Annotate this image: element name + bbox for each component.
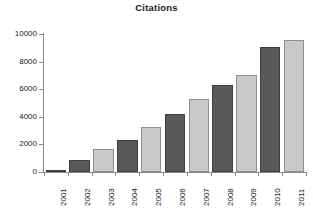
x-tick-mark — [139, 172, 140, 176]
x-tick-mark — [44, 172, 45, 176]
x-tick-mark — [282, 172, 283, 176]
bar-2006 — [165, 114, 185, 172]
bar-2008 — [212, 85, 232, 172]
y-tick-label: 2000 — [19, 140, 37, 148]
bar-2002 — [69, 160, 89, 172]
x-tick-label-2007: 2007 — [203, 188, 211, 206]
y-tick-mark — [39, 89, 44, 90]
x-tick-label-2011: 2011 — [298, 189, 306, 206]
x-tick-label-2002: 2002 — [84, 188, 92, 206]
bar-2007 — [189, 99, 209, 172]
y-tick-mark — [39, 117, 44, 118]
x-tick-label-2010: 2010 — [274, 188, 282, 206]
y-tick-label: 4000 — [19, 113, 37, 121]
x-axis-line — [44, 172, 306, 173]
x-tick-label-2006: 2006 — [179, 188, 187, 206]
x-tick-label-2003: 2003 — [108, 188, 116, 206]
x-tick-mark — [211, 172, 212, 176]
bar-2003 — [93, 149, 113, 172]
y-tick-label: 6000 — [19, 85, 37, 93]
y-tick-mark — [39, 62, 44, 63]
x-tick-label-2004: 2004 — [131, 188, 139, 206]
bar-2010 — [260, 47, 280, 172]
x-tick-mark — [306, 172, 307, 176]
citations-bar-chart: Citations 1000080006000400020000 2001200… — [0, 0, 313, 213]
x-tick-mark — [68, 172, 69, 176]
x-tick-mark — [187, 172, 188, 176]
bar-2005 — [141, 127, 161, 172]
x-tick-label-2001: 2001 — [60, 188, 68, 206]
chart-title: Citations — [0, 2, 313, 13]
y-tick-label: 8000 — [19, 58, 37, 66]
x-tick-label-2008: 2008 — [227, 188, 235, 206]
x-tick-label-2005: 2005 — [155, 188, 163, 206]
bar-2001 — [46, 170, 66, 172]
bar-2011 — [284, 40, 304, 172]
bar-2009 — [236, 75, 256, 172]
x-tick-mark — [258, 172, 259, 176]
x-tick-label-2009: 2009 — [250, 188, 258, 206]
x-tick-mark — [115, 172, 116, 176]
bar-2004 — [117, 140, 137, 172]
y-axis-line — [43, 33, 44, 173]
x-tick-mark — [163, 172, 164, 176]
y-tick-label: 10000 — [15, 30, 37, 38]
y-tick-mark — [39, 34, 44, 35]
x-tick-mark — [235, 172, 236, 176]
x-tick-mark — [92, 172, 93, 176]
y-tick-label: 0 — [33, 168, 37, 176]
y-tick-mark — [39, 144, 44, 145]
